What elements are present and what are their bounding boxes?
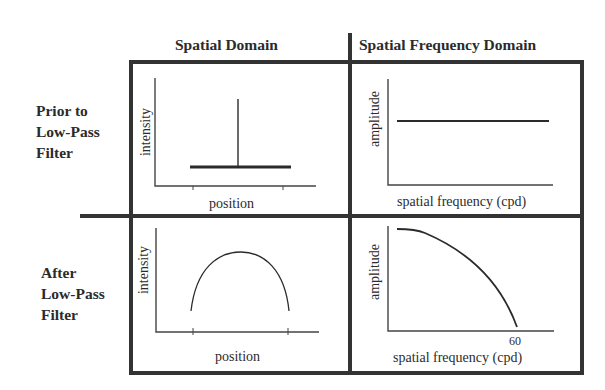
xlabel-top-right: spatial frequency (cpd) bbox=[397, 194, 526, 210]
axes bbox=[388, 226, 554, 331]
plot-bottom-right bbox=[388, 226, 554, 331]
xlabel-bottom-right: spatial frequency (cpd) bbox=[393, 350, 522, 366]
plot-top-left bbox=[155, 78, 316, 190]
xlabel-bottom-left: position bbox=[215, 349, 260, 365]
ylabel-bottom-left: intensity bbox=[136, 246, 152, 294]
xlabel-top-left: position bbox=[209, 196, 254, 212]
axes bbox=[156, 228, 319, 332]
plot-bottom-left bbox=[156, 228, 319, 335]
lowpass-spectrum-curve bbox=[397, 229, 517, 327]
blurred-arch-curve bbox=[191, 252, 289, 311]
plot-top-right bbox=[388, 79, 553, 185]
ylabel-top-right: amplitude bbox=[367, 91, 383, 147]
xtick-label-60: 60 bbox=[509, 334, 521, 349]
ylabel-bottom-right: amplitude bbox=[367, 244, 383, 300]
ylabel-top-left: intensity bbox=[138, 108, 154, 156]
axes bbox=[388, 79, 553, 185]
axes bbox=[155, 78, 316, 186]
